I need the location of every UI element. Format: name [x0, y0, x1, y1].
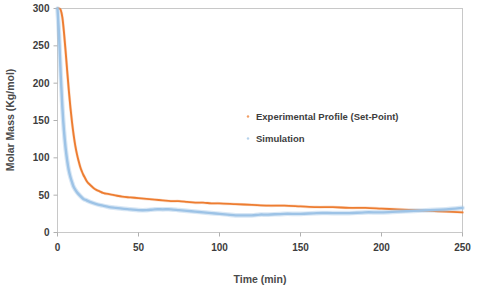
x-axis-tickmarks — [58, 233, 463, 237]
y-tick-label: 50 — [38, 190, 50, 201]
chart-legend: Experimental Profile (Set-Point)Simulati… — [247, 111, 399, 144]
y-axis-title: Molar Mass (Kg/mol) — [4, 69, 16, 172]
y-tick-label: 0 — [44, 227, 50, 238]
x-tick-label: 50 — [133, 242, 145, 253]
y-tick-label: 300 — [33, 3, 50, 14]
legend-label-1: Experimental Profile (Set-Point) — [256, 111, 399, 122]
x-tick-label: 100 — [211, 242, 228, 253]
x-axis-tick-labels: 050100150200250 — [55, 242, 472, 253]
molar-mass-vs-time-chart: 050100150200250 050100150200250300 Time … — [0, 0, 477, 290]
legend-marker-2 — [247, 137, 249, 139]
x-tick-label: 0 — [55, 242, 61, 253]
x-tick-label: 200 — [373, 242, 390, 253]
y-axis-tickmarks — [54, 9, 58, 233]
y-tick-label: 250 — [33, 40, 50, 51]
legend-marker-1 — [247, 115, 249, 117]
chart-figure: 050100150200250 050100150200250300 Time … — [0, 0, 477, 290]
y-tick-label: 100 — [33, 152, 50, 163]
x-tick-label: 150 — [292, 242, 309, 253]
y-tick-label: 150 — [33, 115, 50, 126]
y-tick-label: 200 — [33, 78, 50, 89]
x-axis-title: Time (min) — [234, 273, 287, 285]
x-tick-label: 250 — [454, 242, 471, 253]
legend-label-2: Simulation — [256, 133, 305, 144]
y-axis-tick-labels: 050100150200250300 — [33, 3, 50, 238]
